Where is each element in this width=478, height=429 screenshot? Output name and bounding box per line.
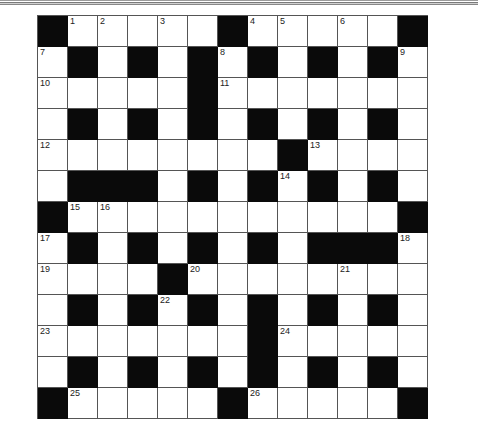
answer-cell[interactable]: [368, 264, 398, 295]
answer-cell[interactable]: [308, 78, 338, 109]
answer-cell[interactable]: [248, 202, 278, 233]
answer-cell[interactable]: [338, 47, 368, 78]
answer-cell[interactable]: [368, 78, 398, 109]
answer-cell[interactable]: 5: [278, 16, 308, 47]
answer-cell[interactable]: [338, 109, 368, 140]
answer-cell[interactable]: [398, 264, 428, 295]
answer-cell[interactable]: 15: [68, 202, 98, 233]
answer-cell[interactable]: [128, 140, 158, 171]
answer-cell[interactable]: [188, 202, 218, 233]
answer-cell[interactable]: 1: [68, 16, 98, 47]
answer-cell[interactable]: [278, 78, 308, 109]
answer-cell[interactable]: [278, 357, 308, 388]
answer-cell[interactable]: [98, 357, 128, 388]
answer-cell[interactable]: [398, 357, 428, 388]
answer-cell[interactable]: [338, 388, 368, 419]
answer-cell[interactable]: [158, 202, 188, 233]
answer-cell[interactable]: [218, 295, 248, 326]
answer-cell[interactable]: 7: [38, 47, 68, 78]
answer-cell[interactable]: [158, 171, 188, 202]
answer-cell[interactable]: [308, 264, 338, 295]
answer-cell[interactable]: [158, 233, 188, 264]
answer-cell[interactable]: [308, 388, 338, 419]
answer-cell[interactable]: 9: [398, 47, 428, 78]
answer-cell[interactable]: 26: [248, 388, 278, 419]
answer-cell[interactable]: 3: [158, 16, 188, 47]
answer-cell[interactable]: 10: [38, 78, 68, 109]
answer-cell[interactable]: [218, 326, 248, 357]
answer-cell[interactable]: [68, 326, 98, 357]
answer-cell[interactable]: 12: [38, 140, 68, 171]
answer-cell[interactable]: [308, 202, 338, 233]
answer-cell[interactable]: [98, 264, 128, 295]
answer-cell[interactable]: 8: [218, 47, 248, 78]
answer-cell[interactable]: [188, 140, 218, 171]
answer-cell[interactable]: [398, 109, 428, 140]
answer-cell[interactable]: [158, 78, 188, 109]
answer-cell[interactable]: [38, 171, 68, 202]
answer-cell[interactable]: [128, 202, 158, 233]
answer-cell[interactable]: [338, 326, 368, 357]
answer-cell[interactable]: [98, 233, 128, 264]
answer-cell[interactable]: [98, 140, 128, 171]
answer-cell[interactable]: [338, 171, 368, 202]
answer-cell[interactable]: [38, 295, 68, 326]
answer-cell[interactable]: 13: [308, 140, 338, 171]
answer-cell[interactable]: [368, 140, 398, 171]
answer-cell[interactable]: [158, 388, 188, 419]
answer-cell[interactable]: [158, 140, 188, 171]
answer-cell[interactable]: [338, 202, 368, 233]
answer-cell[interactable]: [218, 171, 248, 202]
answer-cell[interactable]: [278, 388, 308, 419]
answer-cell[interactable]: [218, 357, 248, 388]
answer-cell[interactable]: [278, 233, 308, 264]
answer-cell[interactable]: [98, 295, 128, 326]
answer-cell[interactable]: 24: [278, 326, 308, 357]
answer-cell[interactable]: [398, 140, 428, 171]
answer-cell[interactable]: [128, 326, 158, 357]
answer-cell[interactable]: 17: [38, 233, 68, 264]
answer-cell[interactable]: [68, 78, 98, 109]
answer-cell[interactable]: 21: [338, 264, 368, 295]
answer-cell[interactable]: 11: [218, 78, 248, 109]
answer-cell[interactable]: [218, 264, 248, 295]
answer-cell[interactable]: 4: [248, 16, 278, 47]
answer-cell[interactable]: [368, 388, 398, 419]
answer-cell[interactable]: 22: [158, 295, 188, 326]
answer-cell[interactable]: 18: [398, 233, 428, 264]
answer-cell[interactable]: [98, 78, 128, 109]
answer-cell[interactable]: 2: [98, 16, 128, 47]
answer-cell[interactable]: 23: [38, 326, 68, 357]
answer-cell[interactable]: [128, 388, 158, 419]
answer-cell[interactable]: [158, 109, 188, 140]
answer-cell[interactable]: [38, 109, 68, 140]
answer-cell[interactable]: [278, 295, 308, 326]
answer-cell[interactable]: [98, 47, 128, 78]
answer-cell[interactable]: [218, 109, 248, 140]
answer-cell[interactable]: [38, 357, 68, 388]
answer-cell[interactable]: [128, 78, 158, 109]
answer-cell[interactable]: [128, 16, 158, 47]
answer-cell[interactable]: [188, 326, 218, 357]
answer-cell[interactable]: [248, 264, 278, 295]
answer-cell[interactable]: [218, 202, 248, 233]
answer-cell[interactable]: [278, 109, 308, 140]
answer-cell[interactable]: [218, 140, 248, 171]
answer-cell[interactable]: [368, 202, 398, 233]
answer-cell[interactable]: [68, 140, 98, 171]
answer-cell[interactable]: 20: [188, 264, 218, 295]
answer-cell[interactable]: [338, 295, 368, 326]
answer-cell[interactable]: [128, 264, 158, 295]
answer-cell[interactable]: [248, 140, 278, 171]
answer-cell[interactable]: [308, 326, 338, 357]
answer-cell[interactable]: [98, 109, 128, 140]
answer-cell[interactable]: [98, 388, 128, 419]
answer-cell[interactable]: [338, 78, 368, 109]
answer-cell[interactable]: [398, 295, 428, 326]
answer-cell[interactable]: 25: [68, 388, 98, 419]
answer-cell[interactable]: [68, 264, 98, 295]
answer-cell[interactable]: [368, 16, 398, 47]
answer-cell[interactable]: [158, 326, 188, 357]
answer-cell[interactable]: [188, 16, 218, 47]
answer-cell[interactable]: [278, 264, 308, 295]
